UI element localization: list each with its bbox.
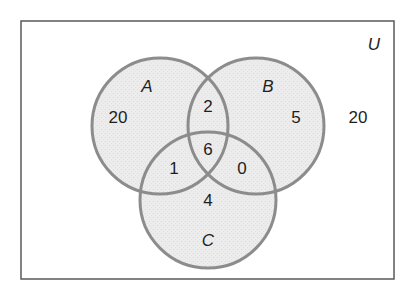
region-only-b: 5 xyxy=(291,108,300,127)
region-only-c: 4 xyxy=(203,191,212,210)
region-a-and-c: 1 xyxy=(169,159,178,178)
region-only-a: 20 xyxy=(109,108,128,127)
region-a-and-b: 2 xyxy=(203,97,212,116)
venn-diagram: U A B C 20 5 2 6 1 0 4 20 xyxy=(0,0,416,301)
set-label-c: C xyxy=(202,231,215,250)
set-label-a: A xyxy=(140,77,152,96)
region-a-b-c: 6 xyxy=(203,140,212,159)
region-outside: 20 xyxy=(349,108,368,127)
set-label-b: B xyxy=(262,77,273,96)
region-b-and-c: 0 xyxy=(237,159,246,178)
universe-label: U xyxy=(368,35,381,54)
